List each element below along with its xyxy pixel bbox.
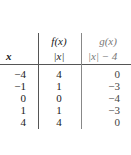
- row-2-f: 0: [44, 92, 74, 104]
- row-3-g: −3: [72, 104, 120, 116]
- row-1-x: −1: [0, 80, 26, 92]
- row-4-f: 4: [44, 116, 74, 128]
- row-4-g: 0: [72, 116, 120, 128]
- row-0-x: −4: [0, 68, 26, 80]
- column-divider-1: [38, 33, 39, 129]
- header-x: x: [6, 50, 20, 62]
- header-divider: [0, 64, 131, 65]
- row-1-g: −3: [72, 80, 120, 92]
- row-3-f: 1: [44, 104, 74, 116]
- row-0-g: 0: [72, 68, 120, 80]
- row-2-g: −4: [72, 92, 120, 104]
- row-4-x: 4: [0, 116, 26, 128]
- header-g-name: g(x): [88, 35, 128, 47]
- row-0-f: 4: [44, 68, 74, 80]
- header-g-expr: |x| − 4: [88, 50, 131, 62]
- row-3-x: 1: [0, 104, 26, 116]
- row-2-x: 0: [0, 92, 26, 104]
- row-1-f: 1: [44, 80, 74, 92]
- header-f-expr: |x|: [44, 50, 74, 62]
- header-f-name: f(x): [44, 35, 74, 47]
- function-value-table: x f(x) |x| g(x) |x| − 4 −4 4 0 −1 1 −3 0…: [0, 0, 131, 155]
